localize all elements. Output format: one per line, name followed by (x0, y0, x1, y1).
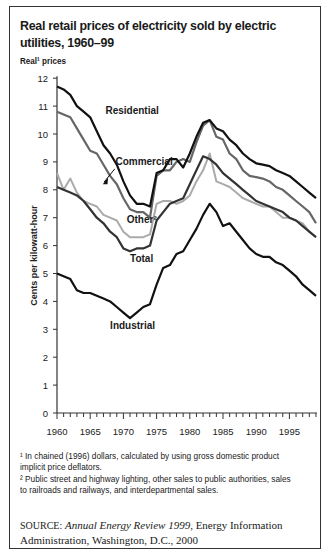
label-commercial: Commercial (115, 156, 172, 167)
y-tick-label: 8 (43, 184, 48, 195)
x-tick-label: 1965 (80, 426, 101, 437)
y-tick-label: 7 (43, 212, 48, 223)
series-other-line (57, 154, 316, 238)
y-tick-label: 3 (43, 324, 48, 335)
y-tick-label: 4 (43, 296, 48, 307)
x-tick-label: 1960 (46, 426, 67, 437)
footnote-1: ¹ In chained (1996) dollars, calculated … (20, 451, 296, 473)
y-tick-label: 9 (43, 156, 48, 167)
y-tick-label: 0 (43, 408, 48, 419)
source-note: SOURCE: Annual Energy Review 1999, Energ… (20, 518, 320, 547)
source-title: Annual Energy Review 1999 (65, 519, 190, 531)
y-axis-title: Cents per kilowatt-hour (29, 205, 39, 306)
y-tick-label: 2 (43, 352, 48, 363)
label-residential: Residential (105, 105, 159, 116)
footnote-2: ² Public street and highway lighting, ot… (20, 474, 296, 496)
y-tick-label: 12 (37, 73, 48, 84)
y-tick-label: 6 (43, 240, 48, 251)
x-tick-label: 1995 (279, 426, 300, 437)
x-tick-label: 1970 (113, 426, 134, 437)
x-tick-label: 1985 (212, 426, 233, 437)
y-tick-label: 5 (43, 268, 48, 279)
x-tick-label: 1980 (179, 426, 200, 437)
label-industrial: Industrial (110, 320, 155, 331)
label-total: Total (130, 253, 153, 264)
label-other: Other² (127, 214, 158, 225)
x-tick-label: 1990 (246, 426, 267, 437)
y-tick-label: 10 (37, 129, 48, 140)
y-tick-label: 1 (43, 380, 48, 391)
y-tick-label: 11 (38, 101, 48, 112)
series-industrial-line (57, 204, 316, 318)
source-label: SOURCE: (20, 520, 62, 531)
x-tick-label: 1975 (146, 426, 167, 437)
